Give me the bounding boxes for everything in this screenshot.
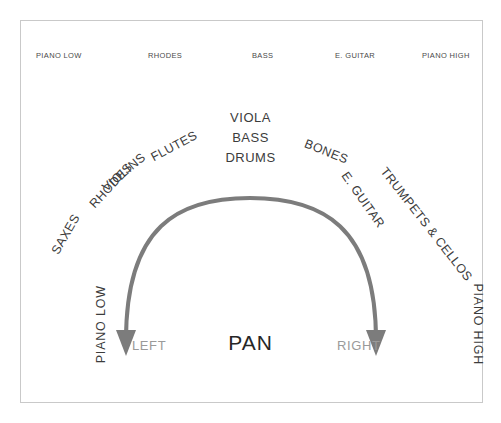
top-label-rhodes: RHODES: [148, 52, 182, 60]
center-label-drums: DRUMS: [0, 148, 501, 168]
top-label-piano-high: PIANO HIGH: [422, 52, 470, 60]
top-label-piano-low: PIANO LOW: [36, 52, 82, 60]
top-label-e-guitar: E. GUITAR: [335, 52, 375, 60]
page-title: PAN: [0, 331, 501, 355]
center-stack: VIOLA BASS DRUMS: [0, 108, 501, 168]
center-label-bass: BASS: [0, 128, 501, 148]
top-label-bass: BASS: [252, 52, 273, 60]
bottom-label-right: RIGHT: [337, 339, 380, 352]
pan-diagram-root: PIANO LOW RHODES BASS E. GUITAR PIANO HI…: [0, 0, 501, 423]
center-label-viola: VIOLA: [0, 108, 501, 128]
